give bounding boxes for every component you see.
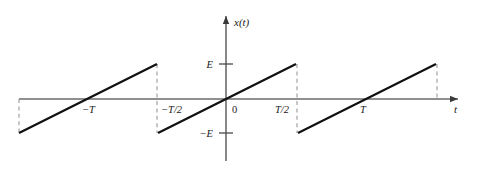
y-axis-label: x(t): [233, 16, 250, 29]
tick-label-origin: 0: [232, 104, 237, 115]
tick-label-T-half: T/2: [275, 104, 290, 115]
tick-label-minus-E: −E: [200, 128, 214, 139]
tick-label-minus-T-half: −T/2: [161, 104, 183, 115]
sawtooth-waveform-figure: x(t) t E −E −T −T/2 0 T/2 T: [0, 0, 480, 177]
tick-label-E: E: [206, 59, 214, 70]
plot-canvas: x(t) t E −E −T −T/2 0 T/2 T: [0, 0, 480, 177]
tick-label-minus-T: −T: [82, 104, 96, 115]
